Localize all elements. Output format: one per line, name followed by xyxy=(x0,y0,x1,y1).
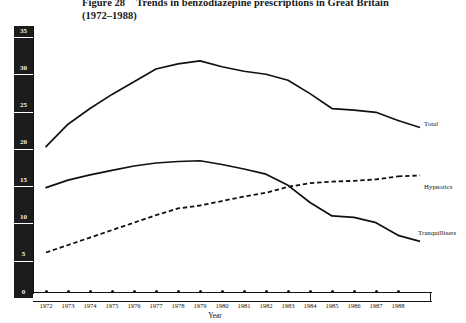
y-tick-label: 15 xyxy=(14,175,33,186)
leader-line-hypnotics xyxy=(398,175,420,176)
y-tick-separator xyxy=(14,149,33,150)
y-tick-label: 0 xyxy=(14,287,33,298)
x-tick-mark xyxy=(89,290,92,293)
series-line-hypnotics xyxy=(46,176,398,252)
x-tick-label: 1988 xyxy=(383,302,413,309)
y-tick-separator xyxy=(14,186,33,187)
x-tick-mark xyxy=(111,290,114,293)
series-label-tranquillisers: Tranquillisers xyxy=(418,229,456,236)
y-tick-label: 10 xyxy=(14,212,33,223)
figure-subtitle: (1972–1988) xyxy=(82,10,454,23)
leader-line-tranquillisers xyxy=(398,235,420,241)
x-tick-mark xyxy=(45,290,48,293)
y-tick-separator xyxy=(14,223,33,224)
x-tick-mark xyxy=(287,290,290,293)
x-tick-mark xyxy=(155,290,158,293)
y-tick-separator xyxy=(14,74,33,75)
figure-title: Figure 28Trends in benzodiazepine prescr… xyxy=(82,0,454,22)
x-tick-mark xyxy=(221,290,224,293)
leader-line-total xyxy=(398,120,420,127)
x-tick-mark xyxy=(375,290,378,293)
series-line-tranquillisers xyxy=(46,161,398,236)
series-label-total: Total xyxy=(424,120,438,127)
x-tick-mark xyxy=(199,290,202,293)
series-label-hypnotics: Hypnotics xyxy=(424,183,452,190)
plot-area xyxy=(33,26,443,293)
x-tick-mark xyxy=(397,290,400,293)
figure-caption: Trends in benzodiazepine prescriptions i… xyxy=(136,0,389,10)
x-tick-mark xyxy=(67,290,70,293)
y-tick-separator xyxy=(14,298,33,299)
x-tick-mark xyxy=(353,290,356,293)
y-tick-separator xyxy=(14,37,33,38)
y-tick-label: 30 xyxy=(14,63,33,74)
x-tick-mark xyxy=(331,290,334,293)
y-tick-separator xyxy=(14,261,33,262)
y-tick-label: 25 xyxy=(14,100,33,111)
x-tick-mark xyxy=(133,290,136,293)
x-tick-mark xyxy=(265,290,268,293)
x-axis-right-end-cap xyxy=(430,292,431,302)
y-tick-label: 5 xyxy=(14,249,33,260)
series-line-total xyxy=(46,61,398,147)
y-tick-separator xyxy=(14,112,33,113)
y-tick-label: 20 xyxy=(14,137,33,148)
x-tick-mark xyxy=(243,290,246,293)
figure-number: Figure 28 xyxy=(82,0,125,10)
x-axis-title: Year xyxy=(0,311,466,320)
y-tick-label: 35 xyxy=(14,26,33,37)
x-axis-title-text: Year xyxy=(208,311,222,320)
figure-28-chart: Figure 28Trends in benzodiazepine prescr… xyxy=(0,0,466,323)
x-tick-mark xyxy=(309,290,312,293)
x-tick-mark xyxy=(177,290,180,293)
